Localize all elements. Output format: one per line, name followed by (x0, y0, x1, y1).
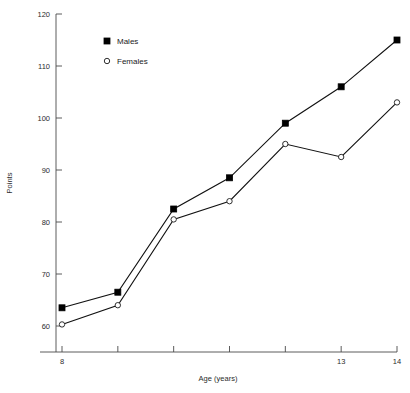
y-tick-label: 70 (42, 270, 50, 279)
chart-legend: MalesFemales (104, 37, 148, 66)
data-point-female (115, 303, 120, 308)
legend-label-males: Males (117, 37, 138, 46)
y-tick-label: 80 (42, 218, 50, 227)
y-tick-label: 100 (37, 114, 50, 123)
y-axis-tick-labels: 60708090100110120 (37, 10, 50, 331)
x-tick-label: 13 (337, 357, 345, 366)
x-axis-tick-labels: 81314 (60, 357, 401, 366)
data-point-male (171, 206, 177, 212)
x-tick-label: 8 (60, 357, 64, 366)
legend-label-females: Females (117, 57, 148, 66)
x-axis-ticks (62, 346, 397, 352)
y-axis-ticks (56, 14, 62, 326)
y-tick-label: 110 (38, 62, 50, 71)
line-chart: 60708090100110120 81314 Age (years) Poin… (0, 0, 410, 393)
data-point-male (227, 175, 233, 181)
series-males (59, 37, 400, 311)
data-point-female (227, 199, 232, 204)
x-tick-label: 14 (393, 357, 401, 366)
data-point-female (59, 322, 64, 327)
y-tick-label: 120 (37, 10, 50, 19)
data-point-male (115, 289, 121, 295)
data-point-male (282, 120, 288, 126)
legend-marker-males (104, 38, 110, 44)
y-tick-label: 90 (42, 166, 50, 175)
data-point-male (59, 305, 65, 311)
y-axis-title: Points (5, 172, 14, 193)
series-females (59, 100, 399, 327)
data-series-layer (59, 37, 400, 327)
plot-area: 60708090100110120 81314 Age (years) Poin… (0, 0, 410, 393)
data-point-female (171, 217, 176, 222)
data-point-male (394, 37, 400, 43)
data-point-female (394, 100, 399, 105)
legend-marker-females (104, 58, 109, 63)
x-axis-title: Age (years) (199, 374, 238, 383)
series-line-females (62, 102, 397, 324)
data-point-female (338, 154, 343, 159)
y-tick-label: 60 (42, 322, 50, 331)
data-point-male (338, 84, 344, 90)
series-line-males (62, 40, 397, 308)
data-point-female (283, 141, 288, 146)
